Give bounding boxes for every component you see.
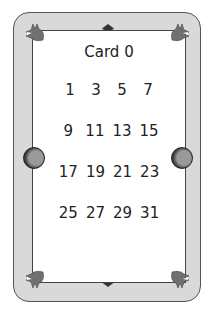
card-face: Card 0 1 3 5 7 9 11 13 15 17 19 21 23 25… xyxy=(32,30,186,283)
number-row: 1 3 5 7 xyxy=(33,81,185,122)
number-cell: 25 xyxy=(59,204,78,245)
number-cell: 3 xyxy=(87,81,105,122)
number-cell: 21 xyxy=(113,163,132,204)
number-cell: 1 xyxy=(61,81,79,122)
number-cell: 23 xyxy=(140,163,159,204)
number-cell: 31 xyxy=(140,204,159,245)
card-title: Card 0 xyxy=(33,43,185,61)
number-cell: 27 xyxy=(86,204,105,245)
number-cell: 5 xyxy=(113,81,131,122)
left-knob-icon xyxy=(23,147,45,169)
right-knob-icon xyxy=(171,147,193,169)
number-cell: 17 xyxy=(59,163,78,204)
number-cell: 7 xyxy=(139,81,157,122)
corner-claw-icon xyxy=(25,22,47,44)
corner-claw-icon xyxy=(25,268,47,290)
number-cell: 11 xyxy=(85,122,104,163)
corner-claw-icon xyxy=(168,22,190,44)
number-row: 25 27 29 31 xyxy=(33,204,185,245)
number-grid: 1 3 5 7 9 11 13 15 17 19 21 23 25 27 29 … xyxy=(33,81,185,245)
number-cell: 19 xyxy=(86,163,105,204)
number-row: 9 11 13 15 xyxy=(33,122,185,163)
number-cell: 29 xyxy=(113,204,132,245)
number-cell: 9 xyxy=(59,122,77,163)
number-row: 17 19 21 23 xyxy=(33,163,185,204)
corner-claw-icon xyxy=(168,268,190,290)
number-cell: 15 xyxy=(140,122,159,163)
number-cell: 13 xyxy=(112,122,131,163)
